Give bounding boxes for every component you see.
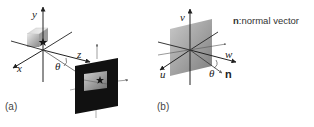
- legend-description: :normal vector: [239, 15, 299, 26]
- panel-a-caption: (a): [5, 101, 17, 112]
- panel-b: v u w θ n (b): [157, 9, 236, 112]
- u-axis-label: u: [160, 68, 166, 80]
- theta-arc-b: [214, 60, 217, 68]
- panel-b-caption: (b): [157, 101, 169, 112]
- figure-canvas: y x z θ (a) v u w θ n (b): [0, 0, 314, 127]
- legend: n:normal vector: [233, 15, 299, 26]
- theta-arc: [64, 58, 67, 66]
- view-ray: [43, 50, 78, 73]
- panel-a: y x z θ (a): [5, 7, 128, 118]
- y-axis-label: y: [31, 8, 37, 20]
- normal-label: n: [225, 68, 232, 80]
- v-axis-label: v: [180, 11, 185, 23]
- legend-text: n:normal vector: [233, 15, 299, 26]
- x-axis-label: x: [16, 62, 22, 74]
- theta-label: θ: [55, 60, 61, 72]
- z-axis-label: z: [76, 48, 82, 60]
- theta-label-b: θ: [209, 67, 215, 79]
- w-axis-label: w: [225, 48, 233, 60]
